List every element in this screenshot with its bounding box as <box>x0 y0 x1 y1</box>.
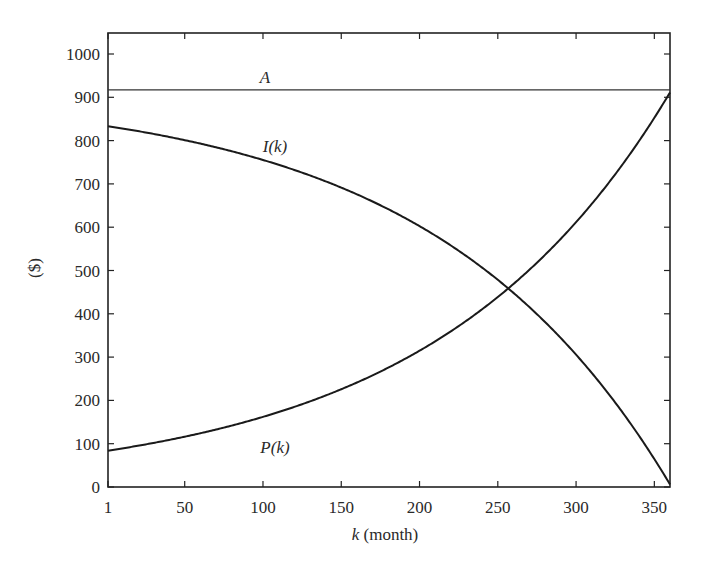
y-tick-label: 900 <box>75 88 101 107</box>
x-tick-label: 100 <box>250 498 276 517</box>
y-tick-label: 200 <box>75 391 101 410</box>
y-tick-label: 0 <box>92 478 101 497</box>
x-tick-label: 250 <box>485 498 511 517</box>
y-tick-label: 700 <box>75 175 101 194</box>
label-I: I(k) <box>262 137 288 156</box>
y-tick-label: 100 <box>75 435 101 454</box>
y-tick-label: 1000 <box>66 45 100 64</box>
x-tick-label: 50 <box>176 498 193 517</box>
plot-frame <box>108 33 670 487</box>
y-axis-label: ($) <box>25 258 44 278</box>
y-tick-label: 400 <box>75 305 101 324</box>
x-tick-label: 200 <box>407 498 433 517</box>
y-tick-label: 600 <box>75 218 101 237</box>
x-tick-label: 150 <box>329 498 355 517</box>
y-tick-label: 300 <box>75 348 101 367</box>
series-P-curve <box>108 92 670 450</box>
label-A: A <box>259 68 271 87</box>
x-tick-label: 1 <box>104 498 113 517</box>
x-axis-label: k (month) <box>352 525 419 544</box>
x-tick-label: 300 <box>563 498 589 517</box>
plot-area: 1501001502002503003500100200300400500600… <box>25 33 670 544</box>
y-tick-label: 800 <box>75 132 101 151</box>
x-tick-label: 350 <box>642 498 668 517</box>
label-P: P(k) <box>259 438 290 457</box>
amortization-chart: 1501001502002503003500100200300400500600… <box>0 0 707 570</box>
series-I-curve <box>108 126 670 484</box>
y-tick-label: 500 <box>75 262 101 281</box>
